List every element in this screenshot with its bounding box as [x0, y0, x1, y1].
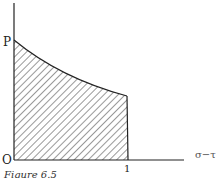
hatched-region	[14, 40, 128, 160]
x-tick-label-1: 1	[124, 164, 130, 174]
figure-caption: Figure 6.5	[4, 170, 57, 178]
x-axis-label: σ−τ	[195, 150, 216, 160]
y-intercept-label-p: P	[3, 36, 11, 48]
diagram-canvas	[0, 0, 219, 178]
origin-label-o: O	[2, 154, 12, 166]
